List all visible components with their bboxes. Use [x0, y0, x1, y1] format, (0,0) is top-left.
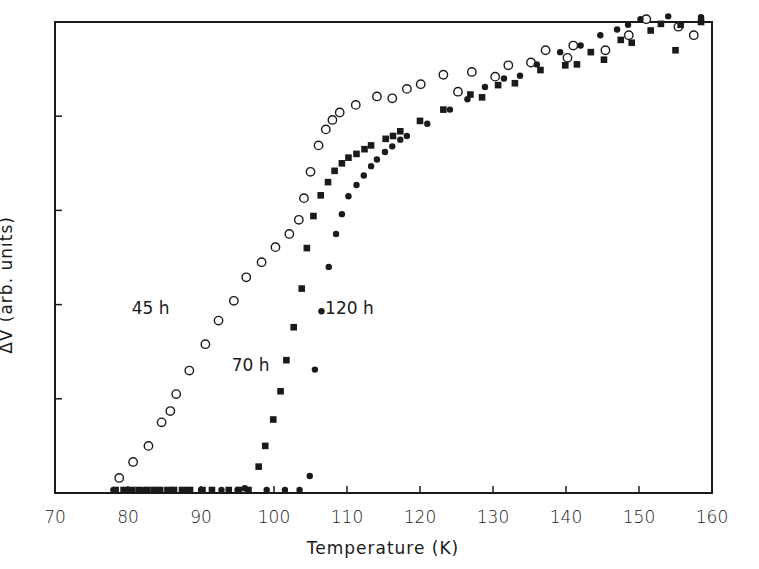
open-circle-marker: [257, 258, 265, 266]
filled-square-marker: [658, 21, 665, 28]
filled-circle-marker: [389, 143, 395, 149]
plot-frame: [55, 22, 712, 493]
filled-circle-marker: [614, 26, 620, 32]
filled-circle-marker: [665, 13, 671, 19]
open-circle-marker: [314, 141, 322, 149]
open-circle-marker: [306, 168, 314, 176]
filled-circle-marker: [141, 487, 147, 493]
filled-circle-marker: [307, 473, 313, 479]
filled-circle-marker: [361, 172, 367, 178]
filled-circle-marker: [424, 121, 430, 127]
filled-circle-marker: [482, 84, 488, 90]
filled-circle-marker: [577, 42, 583, 48]
open-circle-marker: [144, 442, 152, 450]
filled-square-marker: [317, 192, 324, 199]
open-circle-marker: [690, 31, 698, 39]
x-tick-label: 70: [44, 507, 66, 527]
filled-square-marker: [270, 416, 277, 423]
filled-square-marker: [601, 56, 608, 63]
filled-circle-marker: [698, 14, 704, 20]
open-circle-marker: [300, 194, 308, 202]
filled-circle-marker: [374, 156, 380, 162]
axes-box: [55, 22, 712, 493]
x-axis-tick-labels: 708090100110120130140150160: [44, 507, 728, 527]
series-labels: 45 h70 h120 h: [132, 298, 374, 375]
filled-circle-marker: [242, 485, 248, 491]
filled-square-marker: [304, 245, 311, 252]
x-tick-label: 110: [331, 507, 363, 527]
open-circle-marker: [115, 474, 123, 482]
filled-circle-marker: [404, 133, 410, 139]
x-tick-label: 140: [550, 507, 582, 527]
filled-circle-marker: [264, 487, 270, 493]
open-circle-marker: [468, 68, 476, 76]
filled-square-marker: [283, 357, 290, 364]
filled-circle-marker: [557, 49, 563, 55]
open-circle-marker: [388, 94, 396, 102]
filled-square-marker: [562, 62, 569, 69]
filled-square-marker: [495, 82, 502, 89]
filled-circle-marker: [318, 308, 324, 314]
filled-circle-marker: [312, 366, 318, 372]
filled-circle-marker: [464, 96, 470, 102]
x-tick-label: 130: [477, 507, 509, 527]
filled-circle-marker: [333, 231, 339, 237]
filled-square-marker: [325, 179, 332, 186]
filled-circle-marker: [637, 16, 643, 22]
filled-circle-marker: [282, 487, 288, 493]
filled-square-marker: [331, 168, 338, 175]
filled-square-marker: [298, 285, 305, 292]
x-tick-label: 160: [696, 507, 728, 527]
x-tick-label: 150: [623, 507, 655, 527]
open-circle-marker: [504, 61, 512, 69]
open-circle-marker: [563, 54, 571, 62]
filled-circle-marker: [183, 487, 189, 493]
filled-square-marker: [677, 22, 684, 29]
open-circle-marker: [336, 108, 344, 116]
filled-square-marker: [512, 80, 519, 87]
filled-square-marker: [361, 146, 368, 153]
filled-square-marker: [647, 27, 654, 34]
series-45h: [115, 15, 698, 482]
filled-square-marker: [440, 106, 447, 113]
filled-circle-marker: [296, 487, 302, 493]
filled-square-marker: [574, 61, 581, 68]
open-circle-marker: [285, 230, 293, 238]
open-circle-marker: [295, 216, 303, 224]
filled-square-marker: [290, 324, 297, 331]
filled-square-marker: [382, 136, 389, 143]
open-circle-marker: [352, 101, 360, 109]
x-tick-label: 100: [258, 507, 290, 527]
open-circle-marker: [271, 243, 279, 251]
filled-square-marker: [479, 94, 486, 101]
x-tick-label: 80: [117, 507, 139, 527]
filled-square-marker: [225, 487, 232, 494]
filled-circle-marker: [198, 487, 204, 493]
filled-circle-marker: [154, 487, 160, 493]
filled-square-marker: [617, 37, 624, 44]
filled-circle-marker: [534, 61, 540, 67]
filled-circle-marker: [110, 487, 116, 493]
filled-circle-marker: [501, 75, 507, 81]
filled-square-marker: [277, 388, 284, 395]
filled-circle-marker: [517, 72, 523, 78]
open-circle-marker: [417, 80, 425, 88]
open-circle-marker: [601, 46, 609, 54]
filled-circle-marker: [382, 149, 388, 155]
filled-circle-marker: [625, 22, 631, 28]
filled-circle-marker: [368, 163, 374, 169]
filled-square-marker: [390, 133, 397, 140]
filled-circle-marker: [447, 106, 453, 112]
filled-square-marker: [397, 128, 404, 135]
x-tick-label: 120: [404, 507, 436, 527]
filled-square-marker: [345, 154, 352, 161]
filled-square-marker: [255, 463, 262, 470]
filled-square-marker: [672, 47, 679, 54]
x-tick-label: 90: [190, 507, 212, 527]
open-circle-marker: [454, 88, 462, 96]
filled-circle-marker: [218, 487, 224, 493]
open-circle-marker: [373, 92, 381, 100]
open-circle-marker: [541, 46, 549, 54]
open-circle-marker: [214, 316, 222, 324]
filled-circle-marker: [326, 264, 332, 270]
